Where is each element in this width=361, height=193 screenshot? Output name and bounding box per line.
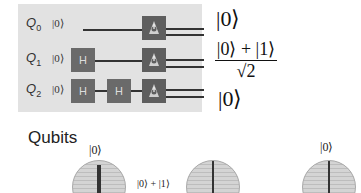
output-state-q2: |0⟩ [218, 86, 242, 112]
output-state-q0: |0⟩ [216, 6, 240, 32]
classical-wire-q2-a [166, 89, 204, 91]
sphere-state-label-1: |0⟩ + |1⟩ [137, 178, 170, 189]
bloch-sphere-1 [186, 160, 240, 193]
classical-wire-q0-a [166, 28, 204, 30]
output-state-q1: |0⟩ + |1⟩ √2 [208, 38, 284, 82]
sphere-state-label-2: |0⟩ [320, 140, 333, 155]
qubits-section-title: Qubits [28, 128, 77, 148]
qubit-label-1: Q1 [26, 50, 41, 68]
qubit-init-2: |0⟩ [52, 83, 64, 96]
measurement-icon [142, 48, 166, 72]
qubit-label-2: Q2 [26, 81, 41, 99]
qubit-init-1: |0⟩ [52, 52, 64, 65]
classical-wire-q1-b [166, 66, 204, 68]
classical-wire-q1-a [166, 59, 204, 61]
measurement-icon [142, 79, 166, 103]
wire-q1 [94, 60, 144, 62]
bloch-sphere-2 [302, 160, 356, 193]
hadamard-gate-q1: H [71, 48, 95, 72]
classical-wire-q2-b [166, 96, 204, 98]
sphere-state-label-0: |0⟩ [89, 143, 102, 158]
hadamard-gate-q2-second: H [107, 79, 131, 103]
classical-wire-q0-b [166, 34, 204, 36]
hadamard-gate-q2-first: H [71, 79, 95, 103]
qubit-init-0: |0⟩ [52, 17, 64, 30]
qubit-label-0: Q0 [26, 15, 41, 33]
measurement-icon [142, 16, 166, 40]
wire-q0 [83, 29, 143, 31]
bloch-sphere-0 [72, 160, 126, 193]
